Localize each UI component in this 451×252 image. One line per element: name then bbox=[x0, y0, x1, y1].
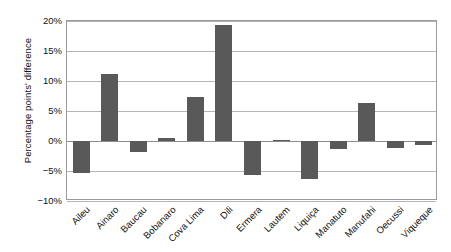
x-tick-label: Ermera bbox=[233, 204, 263, 234]
x-axis-tick-labels: AileuAinaroBaucauBobanaroCova LimaDiliEr… bbox=[66, 200, 437, 252]
plot-area bbox=[66, 20, 437, 200]
x-tick-label: Aileu bbox=[69, 204, 92, 227]
bar bbox=[73, 141, 90, 173]
bar bbox=[101, 74, 118, 141]
y-tick-label: 10% bbox=[22, 75, 62, 86]
bar-chart: Percentage points' difference 20%15%10%5… bbox=[0, 0, 451, 252]
y-tick-label: −10% bbox=[22, 195, 62, 206]
bar bbox=[273, 140, 290, 142]
bar bbox=[387, 141, 404, 148]
bar bbox=[415, 141, 432, 145]
y-tick-label: 0% bbox=[22, 135, 62, 146]
bar bbox=[358, 103, 375, 141]
bar bbox=[301, 141, 318, 179]
y-tick-label: −5% bbox=[22, 165, 62, 176]
y-tick-label: 5% bbox=[22, 105, 62, 116]
bar bbox=[244, 141, 261, 175]
y-tick-label: 15% bbox=[22, 45, 62, 56]
bar bbox=[187, 97, 204, 141]
x-tick-label: Dili bbox=[218, 204, 235, 221]
y-axis-tick-labels: 20%15%10%5%0%−5%−10% bbox=[20, 0, 62, 252]
bar bbox=[130, 141, 147, 152]
x-tick-label: Ainaro bbox=[93, 204, 120, 231]
bar bbox=[215, 25, 232, 141]
bar bbox=[158, 138, 175, 141]
bar bbox=[330, 141, 347, 149]
y-tick-label: 20% bbox=[22, 15, 62, 26]
bars-layer bbox=[67, 21, 436, 199]
x-tick-label: Lautem bbox=[262, 204, 292, 234]
